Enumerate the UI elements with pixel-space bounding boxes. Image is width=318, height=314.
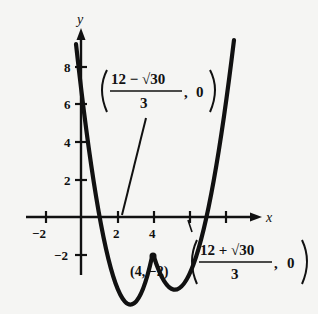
right-root-denominator: 3 (231, 266, 239, 282)
x-tick-label: 4 (149, 226, 156, 241)
parabola-chart: −2 2 4 8 6 4 2 −2 y x 12 − √30 3 , 0 (4,… (0, 0, 318, 314)
x-axis-label: x (265, 210, 273, 225)
left-root-y-value: 0 (196, 84, 204, 100)
y-tick-label: 2 (64, 173, 71, 188)
y-axis-arrow-icon (77, 28, 86, 40)
right-root-annotation: 12 + √30 3 , 0 (192, 240, 307, 284)
right-paren (210, 70, 215, 112)
leader-line-left-root (122, 118, 146, 215)
x-axis-arrow-icon (250, 213, 262, 222)
x-tick-label: −2 (32, 226, 46, 241)
left-root-comma: , (184, 84, 188, 100)
right-root-numerator: 12 + √30 (200, 242, 254, 258)
y-tick-label: 8 (64, 60, 71, 75)
y-tick-label: 4 (64, 135, 71, 150)
y-tick-label: −2 (54, 248, 68, 263)
left-root-numerator: 12 − √30 (111, 71, 165, 87)
x-tick-label: 2 (113, 226, 120, 241)
y-axis-label: y (75, 12, 84, 27)
vertex-label: (4, −2) (130, 264, 169, 280)
right-paren (302, 240, 307, 284)
vertex-point (150, 253, 157, 260)
right-root-y-value: 0 (287, 255, 295, 271)
right-root-comma: , (274, 255, 278, 271)
left-root-annotation: 12 − √30 3 , 0 (102, 70, 215, 112)
left-paren (102, 70, 107, 112)
left-root-denominator: 3 (140, 95, 148, 111)
chart-svg: −2 2 4 8 6 4 2 −2 y x 12 − √30 3 , 0 (4,… (0, 0, 318, 314)
y-tick-label: 6 (64, 97, 71, 112)
